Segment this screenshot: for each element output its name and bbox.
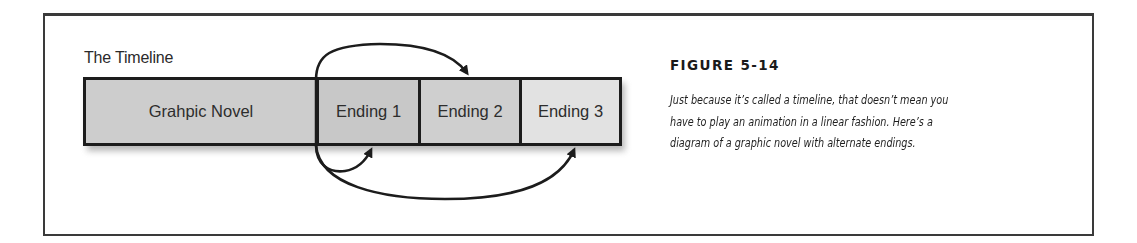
segment-graphic-novel: Grahpic Novel: [86, 80, 316, 143]
caption-line-1: Just because it’s called a timeline, tha…: [670, 89, 997, 111]
segment-ending-3: Ending 3: [519, 80, 619, 143]
figure-title: FIGURE 5-14: [670, 57, 780, 73]
caption-line-3: diagram of a graphic novel with alternat…: [670, 132, 997, 154]
figure-caption: Just because it’s called a timeline, tha…: [670, 89, 1050, 154]
segment-ending-1: Ending 1: [316, 80, 418, 143]
timeline-label: The Timeline: [84, 49, 173, 67]
timeline-bar: Grahpic Novel Ending 1 Ending 2 Ending 3: [83, 77, 622, 146]
segment-ending-2: Ending 2: [418, 80, 519, 143]
caption-line-2: have to play an animation in a linear fa…: [670, 111, 997, 133]
